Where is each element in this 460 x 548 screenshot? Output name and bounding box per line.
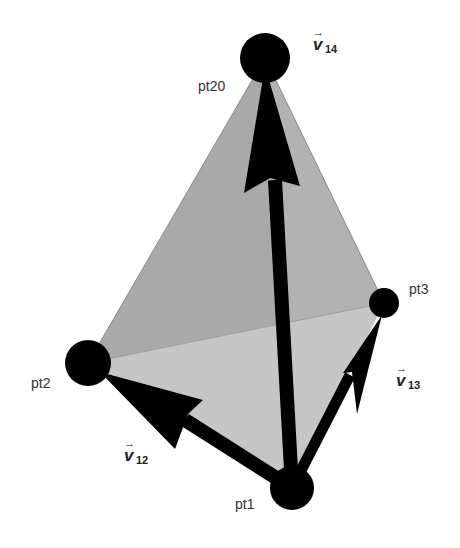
vector-symbol: v <box>396 371 407 390</box>
vertex-pt2 <box>65 340 111 386</box>
label-pt3: pt3 <box>409 281 429 297</box>
label-v12: → v 12 <box>124 437 148 466</box>
label-pt2: pt2 <box>31 375 51 391</box>
vertex-pt20 <box>240 33 290 83</box>
vector-subscript: 14 <box>325 43 338 55</box>
label-pt1: pt1 <box>235 496 255 512</box>
vertex-pt1 <box>270 466 314 510</box>
vector-symbol: v <box>124 446 135 465</box>
label-pt20: pt20 <box>198 78 225 94</box>
label-v13: → v 13 <box>396 362 420 391</box>
tetrahedron-diagram: pt20 pt3 pt2 pt1 → v 14 → v 13 → v 12 <box>0 0 460 548</box>
vector-symbol: v <box>313 35 324 54</box>
vector-subscript: 12 <box>136 454 148 466</box>
vertex-pt3 <box>369 288 399 318</box>
label-v14: → v 14 <box>313 26 338 55</box>
vector-subscript: 13 <box>408 379 420 391</box>
